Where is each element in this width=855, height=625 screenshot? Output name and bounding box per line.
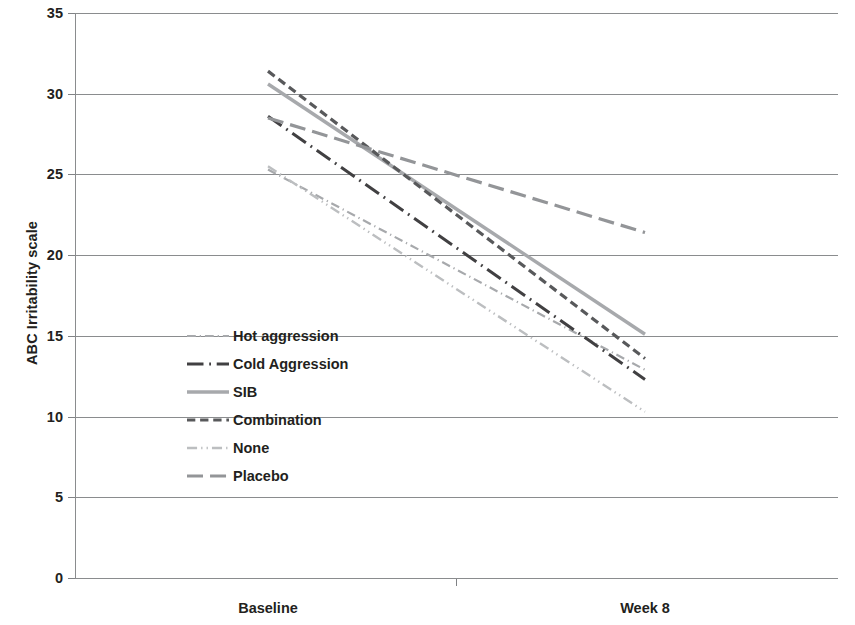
legend-item-label: SIB: [233, 385, 257, 400]
legend-item-label: None: [233, 441, 269, 456]
series-line: [268, 118, 645, 233]
gridline: [75, 13, 838, 14]
y-axis-tick-label: 20: [23, 248, 63, 263]
y-axis-tick-label: 15: [23, 329, 63, 344]
legend-item[interactable]: SIB: [186, 378, 348, 406]
x-axis-tick-label: Week 8: [620, 600, 670, 616]
legend-swatch-icon: [186, 469, 230, 483]
legend-item[interactable]: Cold Aggression: [186, 350, 348, 378]
y-axis-line: [75, 13, 76, 578]
y-axis-tick-label: 35: [23, 6, 63, 21]
legend-item[interactable]: Combination: [186, 406, 348, 434]
legend-item-label: Placebo: [233, 469, 289, 484]
gridline: [75, 174, 838, 175]
legend-item[interactable]: Placebo: [186, 462, 348, 490]
y-axis-tick-label: 0: [23, 571, 63, 586]
gridline: [75, 255, 838, 256]
series-line: [268, 71, 645, 358]
y-axis-tick-mark: [68, 94, 75, 95]
y-axis-tick-mark: [68, 336, 75, 337]
y-axis-tick-mark: [68, 497, 75, 498]
y-axis-tick-mark: [68, 578, 75, 579]
legend-swatch-icon: [186, 329, 230, 343]
legend-swatch-icon: [186, 357, 230, 371]
legend-item[interactable]: None: [186, 434, 348, 462]
y-axis-tick-label: 5: [23, 490, 63, 505]
series-line: [268, 84, 645, 334]
legend-swatch-icon: [186, 385, 230, 399]
legend-swatch-icon: [186, 441, 230, 455]
legend-item-label: Hot aggression: [233, 329, 339, 344]
y-axis-tick-mark: [68, 13, 75, 14]
gridline: [75, 94, 838, 95]
y-axis-tick-mark: [68, 417, 75, 418]
gridline: [75, 497, 838, 498]
y-axis-tick-mark: [68, 255, 75, 256]
legend-item[interactable]: Hot aggression: [186, 322, 348, 350]
legend-item-label: Combination: [233, 413, 322, 428]
x-axis-tick-mark: [456, 579, 457, 586]
y-axis-tick-label: 25: [23, 167, 63, 182]
y-axis-tick-mark: [68, 174, 75, 175]
legend-swatch-icon: [186, 413, 230, 427]
chart-legend: Hot aggressionCold AggressionSIBCombinat…: [186, 322, 348, 490]
x-axis-tick-label: Baseline: [238, 600, 298, 616]
y-axis-tick-label: 30: [23, 86, 63, 101]
y-axis-tick-label: 10: [23, 409, 63, 424]
y-axis-title: ABC Irritability scale: [24, 173, 40, 413]
chart-container: ABC Irritability scale 05101520253035 Ba…: [0, 0, 855, 625]
legend-item-label: Cold Aggression: [233, 357, 348, 372]
